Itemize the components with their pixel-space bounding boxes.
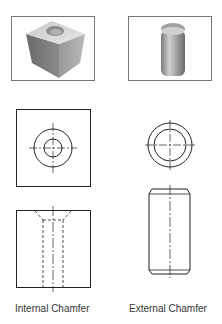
external-chamfer-label: External Chamfer	[129, 303, 207, 314]
orthographic-drawings	[0, 0, 222, 324]
internal-chamfer-label: Internal Chamfer	[15, 303, 89, 314]
internal-front-view-outline	[17, 211, 91, 288]
external-front-view-outline	[149, 189, 190, 274]
